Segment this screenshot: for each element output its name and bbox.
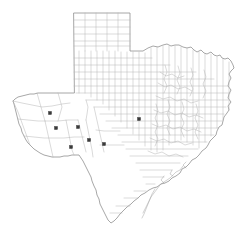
texas-county-map xyxy=(0,0,246,240)
distribution-marker xyxy=(87,138,90,141)
distribution-marker xyxy=(54,126,57,129)
texas-state-outline xyxy=(13,13,234,223)
distribution-marker xyxy=(137,117,140,120)
distribution-marker xyxy=(76,125,79,128)
distribution-marker xyxy=(69,145,72,148)
distribution-marker xyxy=(102,142,105,145)
distribution-marker xyxy=(48,111,51,114)
map-figure xyxy=(0,0,246,240)
state-outline-group xyxy=(13,13,234,223)
